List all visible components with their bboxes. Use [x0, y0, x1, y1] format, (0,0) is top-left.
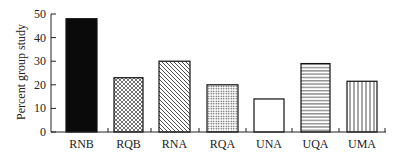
x-category-label: RQA — [210, 137, 236, 151]
x-category-label: RNB — [69, 137, 94, 151]
y-tick-label: 0 — [40, 125, 46, 139]
y-axis-title: Percent group study — [14, 24, 28, 120]
bar-uma — [347, 81, 377, 132]
x-category-label: RNA — [162, 137, 188, 151]
y-tick-label: 40 — [34, 31, 46, 45]
x-category-label: RQB — [116, 137, 141, 151]
y-axis-label: Percent group study — [14, 24, 28, 120]
y-tick-label: 20 — [34, 78, 46, 92]
y-tick-label: 30 — [34, 54, 46, 68]
y-tick-label: 10 — [34, 101, 46, 115]
x-category-label: UQA — [303, 137, 329, 151]
bar-chart: Percent group study 01020304050 RNBRQBRN… — [0, 0, 400, 155]
bar-una — [254, 99, 284, 132]
bar-uqa — [301, 64, 330, 132]
bar-rqa — [207, 85, 238, 132]
x-category-label: UNA — [256, 137, 282, 151]
bars — [66, 19, 377, 132]
bar-rqb — [114, 78, 143, 132]
bar-rnb — [66, 19, 97, 132]
x-category-label: UMA — [348, 137, 376, 151]
y-tick-label: 50 — [34, 7, 46, 21]
bar-rna — [159, 61, 190, 132]
y-axis: 01020304050 — [34, 7, 56, 139]
